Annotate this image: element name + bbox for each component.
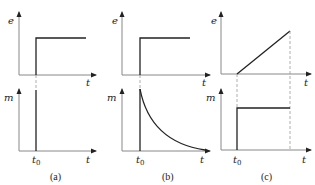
t-label-c-top: t: [304, 77, 309, 88]
e-label-c: e: [211, 15, 217, 26]
step-signal-b: [140, 38, 190, 75]
t-label-a-top: t: [86, 77, 91, 88]
e-label-a: e: [8, 15, 14, 26]
panel-c: e t m t t0 (c): [206, 12, 311, 183]
t-label-c-bottom: t: [302, 154, 307, 165]
step-signal-a: [36, 38, 86, 75]
panel-a: e t m t t0 (a): [4, 12, 96, 183]
ramp-signal-c: [237, 31, 290, 74]
m-label-b: m: [107, 92, 116, 103]
t-label-b-top: t: [202, 77, 207, 88]
e-label-b: e: [112, 15, 118, 26]
t0-label-c: t0: [233, 154, 242, 167]
caption-b: (b): [162, 171, 174, 183]
m-label-c: m: [206, 92, 215, 103]
t-label-b-bottom: t: [200, 154, 205, 165]
t0-label-b: t0: [136, 154, 145, 167]
t0-label-a: t0: [32, 154, 41, 167]
caption-c: (c): [261, 171, 272, 183]
step-signal-c: [237, 108, 290, 150]
decay-curve-b: [140, 89, 205, 150]
t-label-a-bottom: t: [86, 154, 91, 165]
m-label-a: m: [4, 92, 13, 103]
control-response-diagram: e t m t t0 (a) e t m t t0 (b) e t: [0, 0, 315, 185]
caption-a: (a): [50, 171, 61, 183]
panel-b: e t m t t0 (b): [107, 12, 210, 183]
